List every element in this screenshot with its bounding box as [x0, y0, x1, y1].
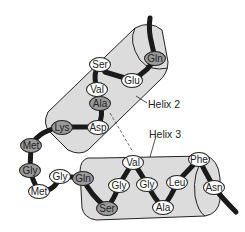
- helix-turn-helix-diagram: Ser Gln Glu Val Ala Lys Asp Met Gly Gly …: [0, 0, 245, 232]
- residue-ala: Ala: [89, 96, 111, 111]
- dashed-connector: [110, 113, 133, 152]
- residue-leu: Leu: [166, 175, 188, 190]
- helix-2-label: Helix 2: [148, 98, 180, 110]
- residue-asn: Asn: [203, 180, 225, 195]
- residue-lys: Lys: [51, 120, 73, 135]
- residue-val: Val: [122, 155, 144, 170]
- residue-gly: Gly: [19, 163, 41, 178]
- residue-phe: Phe: [188, 152, 210, 167]
- residue-asp: Asp: [87, 120, 109, 135]
- residue-met: Met: [20, 138, 42, 153]
- residue-ala: Ala: [152, 200, 174, 215]
- helix-3-label: Helix 3: [149, 128, 181, 140]
- residue-ser: Ser: [89, 57, 111, 72]
- residue-glu: Glu: [121, 73, 143, 88]
- residue-gln: Gln: [72, 171, 94, 186]
- residue-gly: Gly: [49, 169, 71, 184]
- residue-met: Met: [28, 184, 50, 199]
- residue-gly: Gly: [136, 177, 158, 192]
- residue-val: Val: [86, 82, 108, 97]
- residue-gly: Gly: [108, 178, 130, 193]
- residue-gln: Gln: [144, 51, 166, 66]
- residue-ser: Ser: [96, 201, 118, 216]
